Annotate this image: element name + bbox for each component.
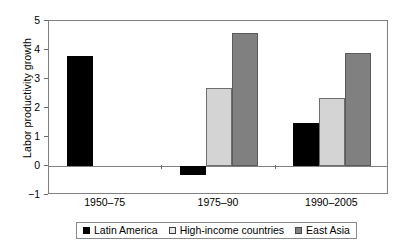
y-axis-tick-mark [44, 165, 48, 166]
chart-figure: Labor productivity growth 543210−11950–7… [0, 0, 401, 245]
x-axis-tick-label: 1975–90 [158, 197, 278, 208]
y-axis-tick-label: 0 [10, 160, 40, 171]
x-axis-tick-mark [275, 165, 276, 169]
y-axis-tick-mark [44, 78, 48, 79]
legend-label: High-income countries [180, 225, 284, 236]
legend-swatch-icon [295, 227, 302, 234]
y-axis-tick-mark [44, 20, 48, 21]
y-axis-tick-mark [44, 194, 48, 195]
y-axis-tick-label: 1 [10, 131, 40, 142]
y-axis-tick-label: 2 [10, 102, 40, 113]
y-axis-tick-label: 3 [10, 73, 40, 84]
y-axis-tick-mark [44, 107, 48, 108]
x-axis-tick-label: 1990–2005 [271, 197, 391, 208]
axis-ticks-layer: 543210−11950–751975–901990–2005 [0, 0, 401, 245]
y-axis-tick-mark [44, 49, 48, 50]
legend-swatch-icon [169, 227, 176, 234]
legend-item-east-asia[interactable]: East Asia [295, 225, 350, 236]
legend-item-latin-america[interactable]: Latin America [83, 225, 158, 236]
x-axis-tick-mark [161, 165, 162, 169]
y-axis-tick-label: 5 [10, 15, 40, 26]
y-axis-tick-label: 4 [10, 44, 40, 55]
legend-label: East Asia [306, 225, 350, 236]
chart-legend: Latin AmericaHigh-income countriesEast A… [76, 222, 357, 239]
legend-label: Latin America [94, 225, 158, 236]
legend-swatch-icon [83, 227, 90, 234]
legend-item-high-income-countries[interactable]: High-income countries [169, 225, 284, 236]
x-axis-tick-label: 1950–75 [45, 197, 165, 208]
y-axis-tick-mark [44, 136, 48, 137]
y-axis-tick-label: −1 [10, 189, 40, 200]
